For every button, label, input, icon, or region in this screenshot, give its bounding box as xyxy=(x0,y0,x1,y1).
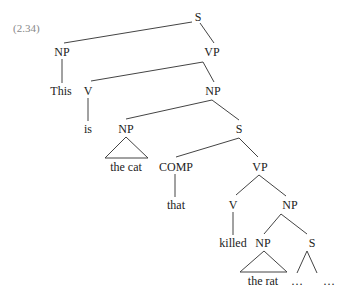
word-the-cat: the cat xyxy=(110,161,142,173)
node-s-relative: S xyxy=(236,123,243,135)
node-comp: COMP xyxy=(159,161,193,173)
branch-np_pred-s_rel xyxy=(212,100,239,120)
node-np-object: NP xyxy=(282,199,297,211)
branch-vp_main-np_pred xyxy=(203,62,214,82)
node-v-killed: V xyxy=(229,199,238,211)
node-np-predicate: NP xyxy=(205,85,220,97)
branch-np_pred-np_cat xyxy=(126,100,212,119)
word-that: that xyxy=(167,199,185,211)
branch-s_root-np_subj xyxy=(64,22,192,43)
branch-s_root-vp_main xyxy=(200,23,214,43)
node-vp-relative: VP xyxy=(252,161,267,173)
branch-s_rel-comp xyxy=(176,138,239,157)
branch-np_obj-np_rat xyxy=(264,214,281,234)
word-is: is xyxy=(84,123,92,135)
branch-vp_rel-np_obj xyxy=(259,175,286,196)
node-s-continuation: S xyxy=(309,237,316,249)
branch-s_cont-ellipsis_2 xyxy=(307,251,317,273)
node-np-subject: NP xyxy=(54,46,69,58)
branch-s_cont-ellipsis_1 xyxy=(297,251,307,273)
branch-vp_main-v_is xyxy=(91,62,203,81)
node-v-is: V xyxy=(84,85,93,97)
tree-branches xyxy=(0,0,337,297)
word-the-rat: the rat xyxy=(248,275,278,287)
syntax-tree-diagram: (2.34) S NP VP This V NP is NP S the cat… xyxy=(0,0,337,297)
branch-s_rel-vp_rel xyxy=(239,138,258,157)
branch-vp_rel-v_killed xyxy=(236,175,259,195)
node-s-root: S xyxy=(195,11,202,23)
triangle-np_rat xyxy=(240,251,287,272)
ellipsis-left: … xyxy=(291,275,303,287)
word-killed: killed xyxy=(219,237,246,249)
triangle-np_cat xyxy=(105,137,148,158)
example-number: (2.34) xyxy=(13,23,40,34)
node-np-the-rat: NP xyxy=(255,237,270,249)
branch-np_obj-s_cont xyxy=(281,214,307,234)
node-np-the-cat: NP xyxy=(118,123,133,135)
ellipsis-right: … xyxy=(323,275,335,287)
word-this: This xyxy=(50,85,71,97)
node-vp-main: VP xyxy=(204,46,219,58)
